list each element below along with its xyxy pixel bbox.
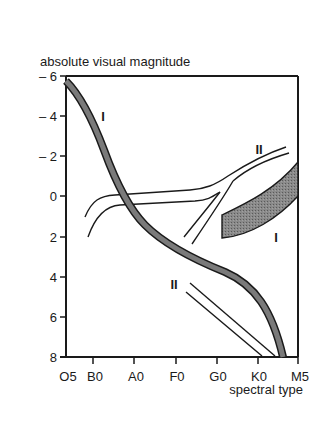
x-axis-label: spectral type [229,382,303,397]
y-tick-label: 0 [50,189,57,204]
x-axis-ticks [93,357,298,364]
y-tick-label: – 6 [39,69,57,84]
x-tick-label: F0 [169,369,184,384]
y-tick-label: 4 [50,270,57,285]
pop2-giants-label: II [255,142,262,157]
hr-diagram: absolute visual magnitude – 6 – 4 – 2 0 … [0,0,323,427]
x-tick-label: O5 [59,369,76,384]
y-tick-label: – 2 [39,149,57,164]
y-tick-label: 8 [50,350,57,365]
pop2-ms-label: II [170,277,177,292]
y-tick-label: 6 [50,310,57,325]
y-tick-label: – 4 [39,109,57,124]
pop1-ms-label: I [101,109,105,124]
pop2-main-sequence [186,283,275,356]
pop1-giants-label: I [274,230,278,245]
y-axis-tick-labels: – 6 – 4 – 2 0 2 4 6 8 [39,69,57,365]
pop1-giants-band [222,162,298,238]
x-tick-label: B0 [87,369,103,384]
x-tick-label: G0 [209,369,226,384]
y-axis-label: absolute visual magnitude [40,54,190,69]
y-tick-label: 2 [50,230,57,245]
x-tick-label: A0 [128,369,144,384]
